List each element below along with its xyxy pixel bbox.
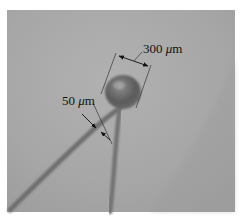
wire-diameter-label: 50 μm — [62, 94, 95, 107]
micrograph-figure — [0, 0, 242, 218]
sphere-bead — [105, 75, 141, 109]
sphere-diameter-label: 300 μm — [143, 42, 182, 55]
